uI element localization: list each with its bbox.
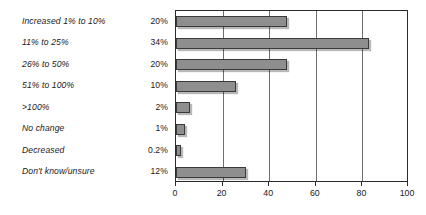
- bar-slot: [176, 97, 190, 119]
- tick-label: 60: [310, 188, 320, 198]
- value-label: 34%: [150, 37, 168, 47]
- horizontal-bar-chart: Increased 1% to 10% 20% 11% to 25% 34% 2…: [0, 0, 426, 215]
- tick-mark: [175, 182, 176, 186]
- chart-row: No change 1%: [0, 118, 172, 140]
- chart-row: >100% 2%: [0, 96, 172, 118]
- bar-slot: [176, 140, 181, 162]
- category-label: No change: [22, 123, 64, 133]
- value-label: 2%: [155, 102, 168, 112]
- chart-row: 26% to 50% 20%: [0, 53, 172, 75]
- category-label: Don't know/unsure: [22, 166, 95, 176]
- category-label: >100%: [22, 102, 50, 112]
- tick-label: 100: [400, 188, 415, 198]
- tick-mark: [361, 182, 362, 186]
- bar: [176, 59, 287, 70]
- bar-slot: [176, 119, 185, 141]
- tick-mark: [222, 182, 223, 186]
- plot-area: [175, 10, 408, 182]
- bar-slot: [176, 33, 369, 55]
- tick-mark: [268, 182, 269, 186]
- tick-label: 40: [263, 188, 273, 198]
- value-label: 10%: [150, 80, 168, 90]
- category-label: Increased 1% to 10%: [22, 16, 106, 26]
- tick-mark: [315, 182, 316, 186]
- category-label-column: Increased 1% to 10% 20% 11% to 25% 34% 2…: [0, 10, 172, 182]
- value-label: 1%: [155, 123, 168, 133]
- category-label: Decreased: [22, 145, 64, 155]
- bar: [176, 167, 246, 178]
- bar: [176, 16, 287, 27]
- chart-row: 51% to 100% 10%: [0, 75, 172, 97]
- chart-row: 11% to 25% 34%: [0, 32, 172, 54]
- category-label: 11% to 25%: [22, 37, 69, 47]
- value-label: 12%: [150, 166, 168, 176]
- bar-slot: [176, 162, 246, 184]
- x-axis: 0 20 40 60 80 100: [175, 182, 408, 208]
- bar-slot: [176, 54, 287, 76]
- bar: [176, 124, 185, 135]
- value-label: 20%: [150, 59, 168, 69]
- chart-row: Decreased 0.2%: [0, 139, 172, 161]
- value-label: 20%: [150, 16, 168, 26]
- category-label: 51% to 100%: [22, 80, 74, 90]
- chart-row: Don't know/unsure 12%: [0, 161, 172, 183]
- value-label: 0.2%: [148, 145, 168, 155]
- tick-label: 80: [356, 188, 366, 198]
- category-label: 26% to 50%: [22, 59, 69, 69]
- tick-label: 0: [173, 188, 178, 198]
- bars-layer: [176, 11, 407, 181]
- bar-slot: [176, 11, 287, 33]
- bar-slot: [176, 76, 236, 98]
- tick-mark: [407, 182, 408, 186]
- bar: [176, 145, 181, 156]
- tick-label: 20: [217, 188, 227, 198]
- bar: [176, 81, 236, 92]
- bar: [176, 102, 190, 113]
- chart-row: Increased 1% to 10% 20%: [0, 10, 172, 32]
- bar: [176, 38, 369, 49]
